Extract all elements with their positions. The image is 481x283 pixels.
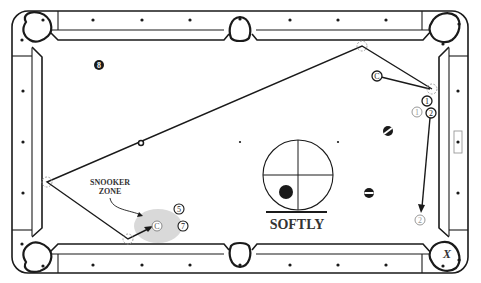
curved-arrow — [110, 198, 141, 215]
striped-ball-a — [383, 126, 393, 136]
small-ring-marker — [139, 141, 144, 146]
svg-text:C: C — [154, 222, 159, 231]
svg-text:7: 7 — [181, 222, 185, 231]
pocket-x-label: X — [442, 247, 452, 261]
pocket-top-right — [429, 13, 459, 42]
pool-table-diagram: X — [0, 0, 481, 283]
svg-text:SNOOKER: SNOOKER — [90, 178, 130, 187]
balls: 8 C 1 1 2 2 5 7 C — [94, 60, 436, 231]
svg-text:1: 1 — [425, 97, 429, 106]
softly-label: SOFTLY — [270, 217, 325, 232]
svg-text:2: 2 — [418, 216, 422, 225]
svg-text:8: 8 — [97, 61, 101, 70]
pocket-bottom-left — [23, 242, 51, 272]
cue-tip-diagram: SOFTLY — [263, 140, 333, 232]
snooker-zone-label: SNOOKER ZONE — [90, 178, 143, 217]
arrowhead-2 — [418, 204, 425, 213]
svg-text:5: 5 — [177, 205, 181, 214]
pocket-top-left-bowl — [23, 12, 51, 42]
diamonds — [21, 18, 462, 266]
object-ball-2-path — [422, 118, 430, 207]
svg-text:C: C — [374, 72, 379, 81]
svg-text:1: 1 — [415, 108, 419, 117]
svg-text:2: 2 — [429, 109, 433, 118]
svg-text:ZONE: ZONE — [99, 187, 122, 196]
striped-ball-b — [364, 188, 374, 198]
pocket-top-middle — [230, 17, 251, 41]
cue-tip-hit-point — [279, 185, 293, 199]
pocket-bottom-middle — [230, 243, 251, 267]
